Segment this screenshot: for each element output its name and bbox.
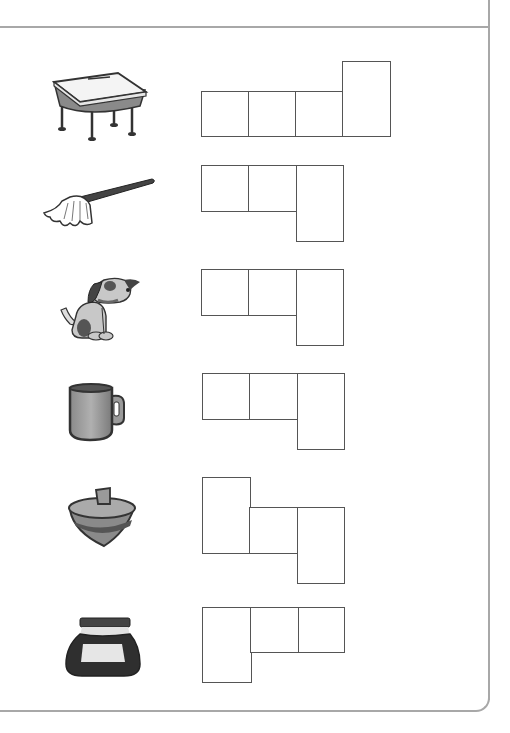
letter-box[interactable] xyxy=(249,507,298,554)
mug-icon xyxy=(66,380,136,446)
letter-box[interactable] xyxy=(250,607,300,653)
panel-right-rule xyxy=(488,0,490,700)
letter-box[interactable] xyxy=(342,61,391,137)
letter-box[interactable] xyxy=(201,91,249,137)
dog-icon xyxy=(58,268,142,344)
letter-box[interactable] xyxy=(295,91,343,137)
letter-box[interactable] xyxy=(249,373,298,420)
spinning-top-icon xyxy=(66,484,140,550)
mop-icon xyxy=(40,175,160,235)
letter-box[interactable] xyxy=(201,269,250,316)
letter-box[interactable] xyxy=(248,165,297,212)
letter-box[interactable] xyxy=(297,373,345,450)
letter-box[interactable] xyxy=(202,477,251,554)
letter-box[interactable] xyxy=(297,507,345,584)
letter-box[interactable] xyxy=(248,91,296,137)
letter-box[interactable] xyxy=(248,269,297,316)
letter-box[interactable] xyxy=(298,607,345,653)
letter-box[interactable] xyxy=(201,165,249,212)
letter-box[interactable] xyxy=(296,269,344,346)
panel-top-rule xyxy=(0,26,490,28)
letter-box[interactable] xyxy=(202,373,251,420)
letter-box[interactable] xyxy=(202,607,252,683)
desk-icon xyxy=(50,68,150,144)
letter-box[interactable] xyxy=(296,165,344,242)
ink-pot-icon xyxy=(64,616,142,680)
